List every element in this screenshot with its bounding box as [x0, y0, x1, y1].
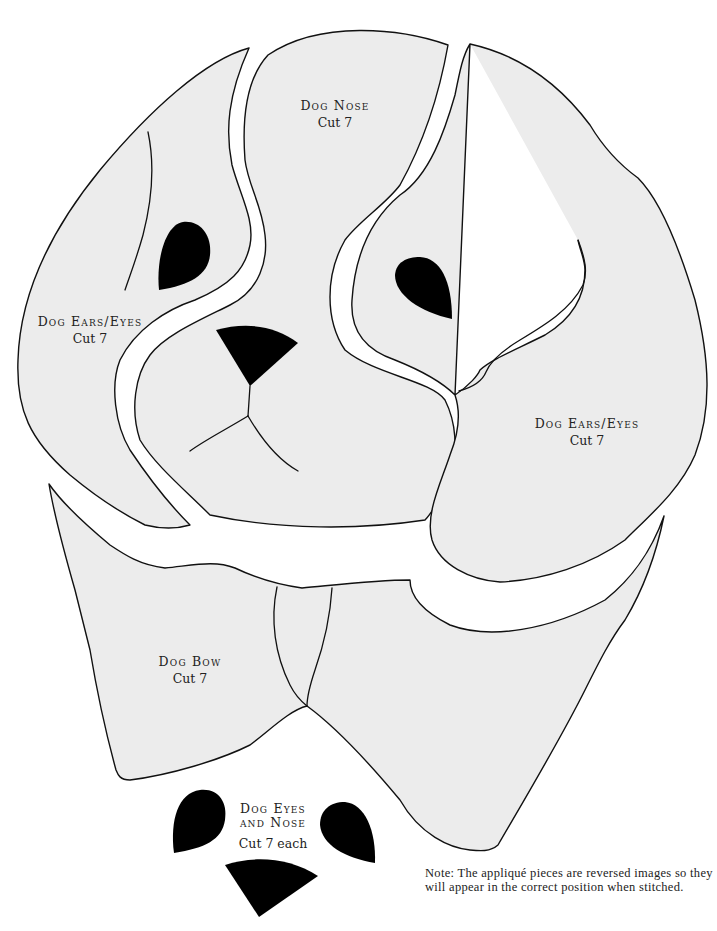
- dog-eyes-nose-title-line2: and Nose: [228, 816, 318, 830]
- right-ears-eyes-cut: Cut 7: [522, 433, 652, 450]
- dog-nose-title: Dog Nose: [280, 98, 390, 115]
- right-ears-eyes-label: Dog Ears/Eyes Cut 7: [522, 416, 652, 450]
- dog-eyes-nose-cut: Cut 7 each: [228, 837, 318, 851]
- dog-bow-title: Dog Bow: [135, 654, 245, 671]
- dog-eyes-nose-title-line1: Dog Eyes: [228, 802, 318, 816]
- spare-left-eye-shape: [173, 790, 226, 853]
- left-ears-eyes-cut: Cut 7: [25, 331, 155, 348]
- dog-nose-cut: Cut 7: [280, 115, 390, 132]
- applique-pattern-canvas: [0, 0, 717, 931]
- left-ears-eyes-label: Dog Ears/Eyes Cut 7: [25, 314, 155, 348]
- spare-right-eye-shape: [320, 802, 375, 863]
- spare-nose-shape: [225, 859, 318, 917]
- right-ears-eyes-title: Dog Ears/Eyes: [522, 416, 652, 433]
- dog-bow-cut: Cut 7: [135, 671, 245, 688]
- reversal-note: Note: The appliqué pieces are reversed i…: [425, 866, 715, 894]
- dog-eyes-nose-label: Dog Eyes and Nose Cut 7 each: [228, 802, 318, 851]
- dog-bow-label: Dog Bow Cut 7: [135, 654, 245, 688]
- left-ears-eyes-title: Dog Ears/Eyes: [25, 314, 155, 331]
- dog-nose-label: Dog Nose Cut 7: [280, 98, 390, 132]
